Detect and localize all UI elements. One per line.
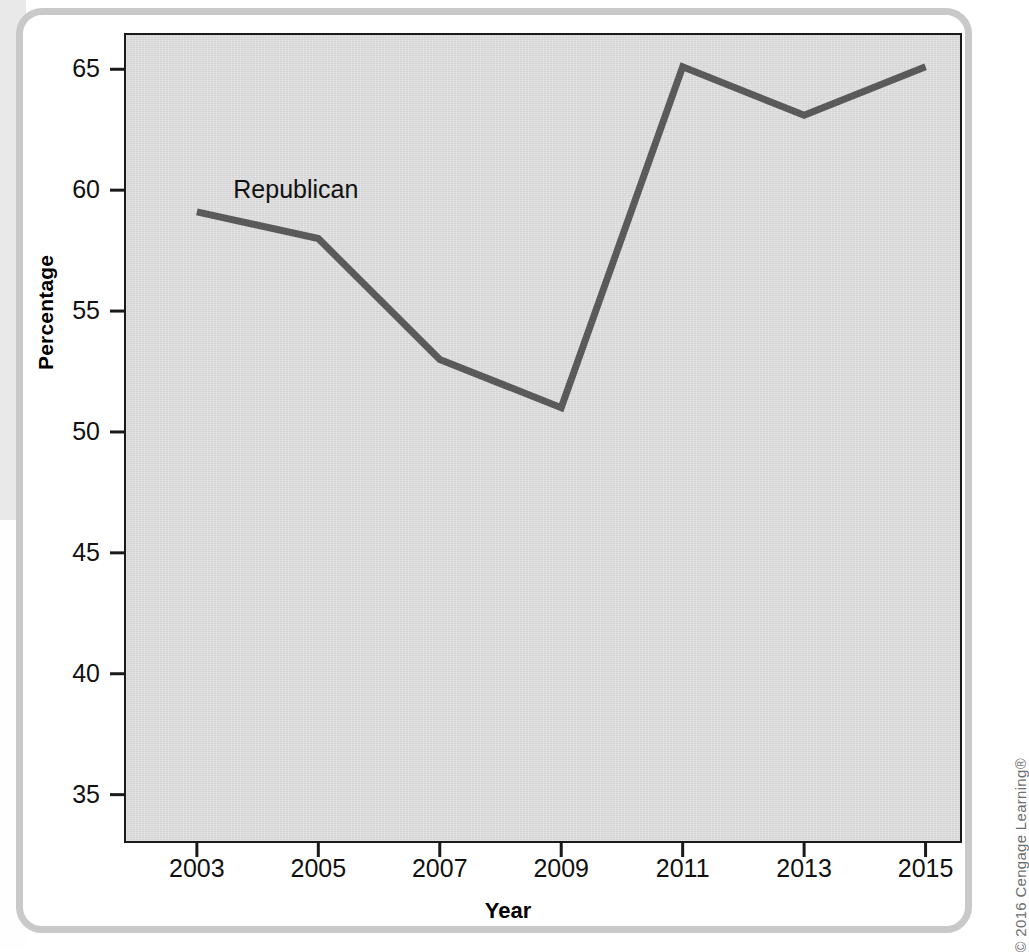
copyright-notice: © 2016 Cengage Learning® xyxy=(1012,758,1029,952)
x-axis-tick-labels: 2003200520072009201120132015 xyxy=(0,856,1016,896)
x-tick-label: 2007 xyxy=(412,856,468,881)
y-tick-label: 65 xyxy=(44,56,100,81)
y-axis-title: Percentage xyxy=(34,255,58,370)
x-tick-label: 2011 xyxy=(656,856,710,881)
x-axis-title: Year xyxy=(0,898,1016,924)
series-line-republican xyxy=(197,67,926,408)
x-tick-label: 2005 xyxy=(291,856,347,881)
x-tick-label: 2015 xyxy=(898,856,954,881)
y-tick-label: 35 xyxy=(44,782,100,807)
x-tick-label: 2003 xyxy=(169,856,225,881)
y-tick-label: 45 xyxy=(44,540,100,565)
y-axis-tick-labels: 35404550556065 xyxy=(40,0,100,949)
series-label-republican: Republican xyxy=(233,175,358,204)
y-tick-label: 50 xyxy=(44,419,100,444)
x-tick-label: 2013 xyxy=(776,856,832,881)
y-axis-ticks xyxy=(110,69,124,794)
y-tick-label: 40 xyxy=(44,661,100,686)
y-tick-label: 60 xyxy=(44,177,100,202)
x-tick-label: 2009 xyxy=(533,856,589,881)
